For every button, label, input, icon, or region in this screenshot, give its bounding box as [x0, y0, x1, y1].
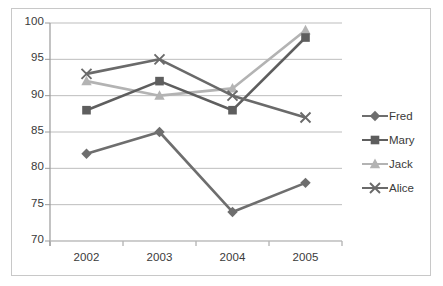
series-mary: [82, 33, 310, 114]
data-point-marker: [370, 111, 380, 121]
legend-label: Mary: [389, 134, 415, 146]
legend-item-mary[interactable]: Mary: [362, 128, 443, 152]
series-alice: [82, 54, 311, 122]
data-point-marker: [300, 178, 310, 188]
data-point-marker: [370, 183, 380, 193]
x-axis-label: 2002: [62, 251, 112, 263]
legend-item-fred[interactable]: Fred: [362, 104, 443, 128]
data-point-marker: [300, 25, 310, 35]
legend-marker-diamond-icon: [362, 109, 388, 123]
chart-frame: 100959085807570 2002200320042005 FredMar…: [11, 8, 431, 276]
data-point-marker: [301, 33, 310, 42]
data-point-marker: [371, 136, 380, 145]
y-axis-label: 80: [14, 160, 44, 172]
legend-label: Fred: [389, 110, 413, 122]
data-point-marker: [228, 106, 237, 115]
x-axis-label: 2004: [208, 251, 258, 263]
legend-item-jack[interactable]: Jack: [362, 152, 443, 176]
legend-marker-square-icon: [362, 133, 388, 147]
series-jack: [81, 25, 310, 100]
legend-label: Jack: [389, 158, 413, 170]
data-point-marker: [155, 77, 164, 86]
y-axis-label: 70: [14, 233, 44, 245]
legend-marker-x-icon: [362, 181, 388, 195]
legend-marker-triangle-icon: [362, 157, 388, 171]
data-point-marker: [82, 106, 91, 115]
legend-item-alice[interactable]: Alice: [362, 176, 443, 200]
legend-label: Alice: [389, 182, 414, 194]
series-fred: [81, 127, 310, 217]
data-point-marker: [370, 159, 380, 169]
chart-legend: FredMaryJackAlice: [362, 104, 443, 200]
y-axis-label: 90: [14, 88, 44, 100]
y-axis-label: 75: [14, 197, 44, 209]
y-axis-label: 85: [14, 124, 44, 136]
data-point-marker: [81, 149, 91, 159]
x-axis-label: 2003: [135, 251, 185, 263]
x-axis-label: 2005: [281, 251, 331, 263]
y-axis-label: 95: [14, 51, 44, 63]
y-axis-label: 100: [14, 15, 44, 27]
